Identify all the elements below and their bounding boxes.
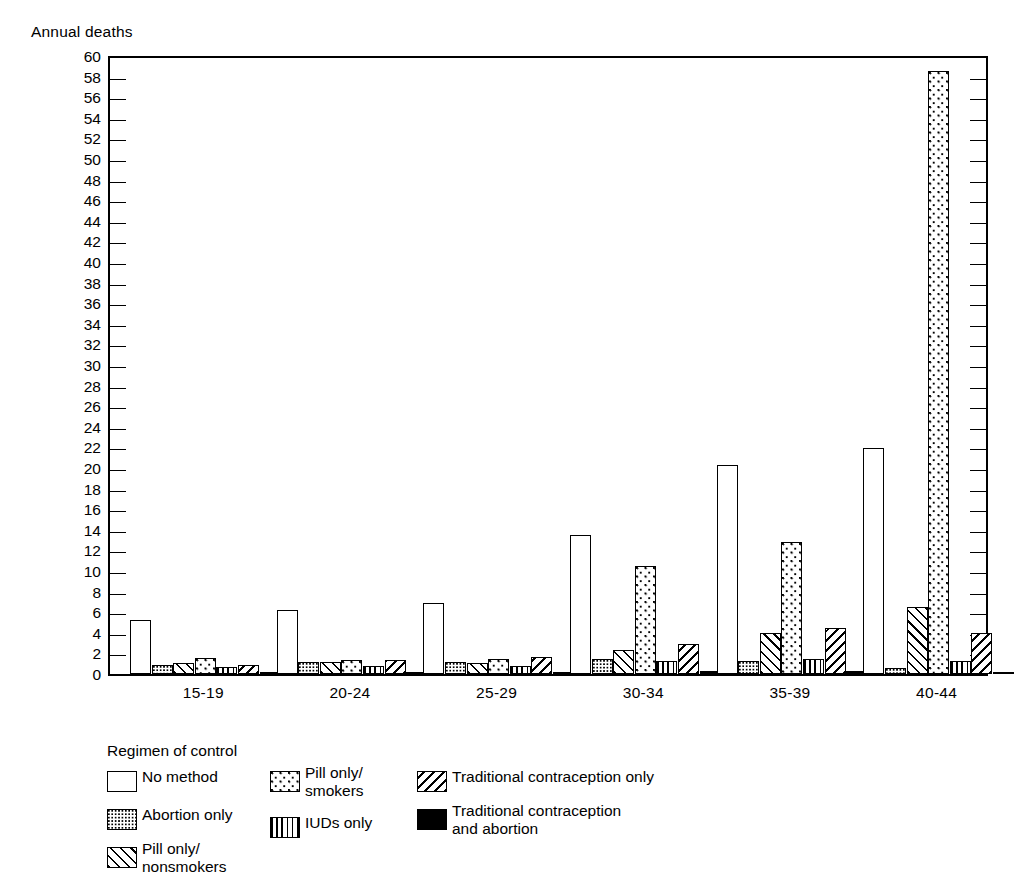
bar: [678, 644, 699, 674]
bar: [341, 660, 362, 674]
y-tick-label: 58: [8, 70, 108, 86]
bar: [445, 662, 466, 674]
y-tick-label: 40: [8, 255, 108, 271]
legend-item: Traditional contraception and abortion: [417, 806, 837, 838]
y-tick-label: 24: [8, 420, 108, 436]
bar: [592, 659, 613, 674]
bar: [781, 542, 802, 674]
legend-label: IUDs only: [305, 814, 372, 832]
legend-swatch-dots-dense-icon: [107, 809, 137, 830]
legend-label: Pill only/ nonsmokers: [142, 840, 226, 876]
y-tick-label: 6: [8, 605, 108, 621]
y-tick-label: 34: [8, 317, 108, 333]
bar: [320, 662, 341, 674]
bar: [510, 666, 531, 674]
bar: [656, 661, 677, 674]
y-tick-label: 26: [8, 399, 108, 415]
y-tick-label: 30: [8, 358, 108, 374]
bar: [613, 650, 634, 674]
y-tick-label: 10: [8, 564, 108, 580]
y-tick-label: 42: [8, 235, 108, 251]
y-tick-label: 12: [8, 544, 108, 560]
legend-swatch-dots-sparse-icon: [270, 771, 300, 792]
bar: [950, 661, 971, 674]
bar: [385, 660, 406, 674]
legend-label: Abortion only: [142, 806, 232, 824]
y-tick-label: 54: [8, 111, 108, 127]
bar: [993, 672, 1014, 674]
bar: [635, 566, 656, 674]
bar: [467, 663, 488, 674]
legend-swatch-none-icon: [107, 771, 137, 792]
y-tick-label: 44: [8, 214, 108, 230]
y-tick-label: 28: [8, 379, 108, 395]
legend-title: Regimen of control: [107, 742, 887, 760]
legend-item: Abortion only: [107, 806, 287, 830]
legend-label: Traditional contraception and abortion: [452, 802, 621, 838]
x-tick-label: 25-29: [476, 684, 517, 702]
bar: [825, 628, 846, 674]
bar: [907, 607, 928, 674]
bar: [531, 657, 552, 675]
x-axis-tick-labels: 15-1920-2425-2930-3435-3940-44: [108, 684, 988, 710]
bar: [216, 667, 237, 674]
bar: [717, 465, 738, 674]
y-axis-tick-labels: 0246810121416182022242628303234363840424…: [0, 0, 108, 895]
legend: Regimen of control No methodAbortion onl…: [107, 742, 887, 769]
y-tick-label: 20: [8, 461, 108, 477]
legend-item: No method: [107, 768, 287, 792]
legend-swatch-diag-up-icon: [107, 847, 137, 868]
bar: [760, 633, 781, 674]
bar: [738, 661, 759, 674]
legend-swatch-diag-down-icon: [417, 771, 447, 792]
bar: [928, 71, 949, 674]
y-tick-label: 16: [8, 502, 108, 518]
bar: [152, 665, 173, 674]
y-tick-label: 36: [8, 296, 108, 312]
bar: [363, 666, 384, 674]
x-tick-label: 35-39: [769, 684, 810, 702]
y-tick-label: 14: [8, 523, 108, 539]
y-tick-label: 52: [8, 132, 108, 148]
bar: [971, 633, 992, 674]
bars-layer: [110, 58, 986, 674]
plot-area: [108, 56, 988, 676]
x-tick-label: 20-24: [329, 684, 370, 702]
bar: [863, 448, 884, 674]
x-tick-label: 40-44: [916, 684, 957, 702]
legend-item: Pill only/ smokers: [270, 768, 425, 800]
legend-swatch-vert-icon: [270, 817, 300, 838]
y-tick-label: 38: [8, 276, 108, 292]
bar: [570, 535, 591, 674]
y-tick-label: 60: [8, 49, 108, 65]
legend-item: Traditional contraception only: [417, 768, 837, 792]
y-tick-label: 46: [8, 193, 108, 209]
bar: [130, 620, 151, 674]
bar: [277, 610, 298, 674]
y-tick-label: 2: [8, 647, 108, 663]
bar-chart: Annual deaths 02468101214161820222426283…: [0, 0, 1017, 895]
x-tick-label: 15-19: [183, 684, 224, 702]
x-tick-label: 30-34: [623, 684, 664, 702]
y-tick-label: 0: [8, 667, 108, 683]
bar: [885, 668, 906, 674]
legend-item: IUDs only: [270, 814, 425, 838]
y-tick-label: 50: [8, 152, 108, 168]
legend-column-3: Traditional contraception onlyTraditiona…: [417, 768, 837, 852]
legend-column-2: Pill only/ smokersIUDs only: [270, 768, 425, 852]
y-tick-label: 56: [8, 90, 108, 106]
y-tick-label: 8: [8, 585, 108, 601]
y-tick-label: 22: [8, 441, 108, 457]
bar: [173, 663, 194, 674]
y-tick-label: 4: [8, 626, 108, 642]
bar: [803, 659, 824, 674]
bar: [488, 659, 509, 674]
legend-swatch-solid-icon: [417, 809, 447, 830]
legend-label: Pill only/ smokers: [305, 764, 364, 800]
y-tick-label: 48: [8, 173, 108, 189]
legend-item: Pill only/ nonsmokers: [107, 844, 287, 876]
y-tick-label: 32: [8, 338, 108, 354]
bar: [238, 665, 259, 674]
legend-label: No method: [142, 768, 218, 786]
y-tick-label: 18: [8, 482, 108, 498]
